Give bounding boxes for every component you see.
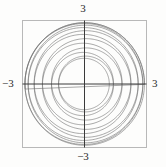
axis-label-right: 3	[152, 78, 158, 89]
axis-label-left: −3	[2, 78, 14, 89]
plot-canvas	[0, 0, 166, 167]
axis-label-top: 3	[0, 3, 166, 14]
parametric-curve-figure: 3 −3 −3 3	[0, 0, 166, 167]
axis-label-bottom: −3	[0, 151, 166, 162]
